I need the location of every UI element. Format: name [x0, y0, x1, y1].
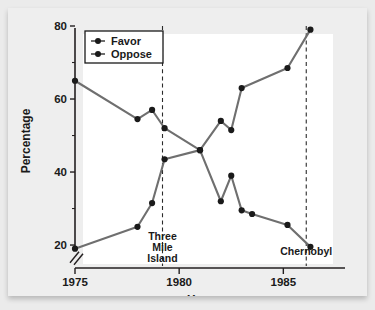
data-point-favor — [239, 85, 245, 91]
legend-label-favor: Favor — [111, 35, 142, 47]
line-chart: 20406080197519801985YearPercentageThreeM… — [8, 8, 367, 296]
legend-label-oppose: Oppose — [111, 48, 152, 60]
data-point-oppose — [239, 207, 245, 213]
data-point-oppose — [149, 200, 155, 206]
data-point-favor — [284, 65, 290, 71]
data-point-oppose — [197, 147, 203, 153]
data-point-oppose — [249, 211, 255, 217]
x-tick-label: 1980 — [166, 276, 192, 288]
data-point-oppose — [284, 222, 290, 228]
annotation-label: Island — [147, 252, 177, 264]
data-point-favor — [161, 125, 167, 131]
data-point-oppose — [228, 173, 234, 179]
x-tick-label: 1985 — [271, 276, 297, 288]
x-tick-label: 1975 — [62, 276, 88, 288]
data-point-favor — [228, 127, 234, 133]
legend-marker-dot — [95, 51, 101, 57]
y-tick-label: 20 — [54, 239, 67, 251]
x-axis-title: Year — [187, 293, 213, 296]
data-point-favor — [218, 118, 224, 124]
data-point-favor — [134, 116, 140, 122]
legend-marker-dot — [95, 38, 101, 44]
y-tick-label: 40 — [54, 166, 67, 178]
data-point-oppose — [72, 246, 78, 252]
data-point-oppose — [134, 224, 140, 230]
y-tick-label: 80 — [54, 20, 67, 32]
figure-plate: 20406080197519801985YearPercentageThreeM… — [8, 8, 367, 296]
data-point-oppose — [218, 198, 224, 204]
data-point-favor — [307, 27, 313, 33]
series-line-oppose — [75, 150, 310, 249]
data-point-oppose — [161, 156, 167, 162]
annotation-label: Chernobyl — [280, 245, 332, 257]
figure-container: 20406080197519801985YearPercentageThreeM… — [0, 0, 375, 310]
data-point-favor — [72, 78, 78, 84]
data-point-favor — [149, 107, 155, 113]
y-tick-label: 60 — [54, 93, 67, 105]
y-axis-title: Percentage — [19, 108, 33, 173]
legend: FavorOppose — [85, 31, 163, 63]
axis-break-mark — [70, 252, 83, 265]
